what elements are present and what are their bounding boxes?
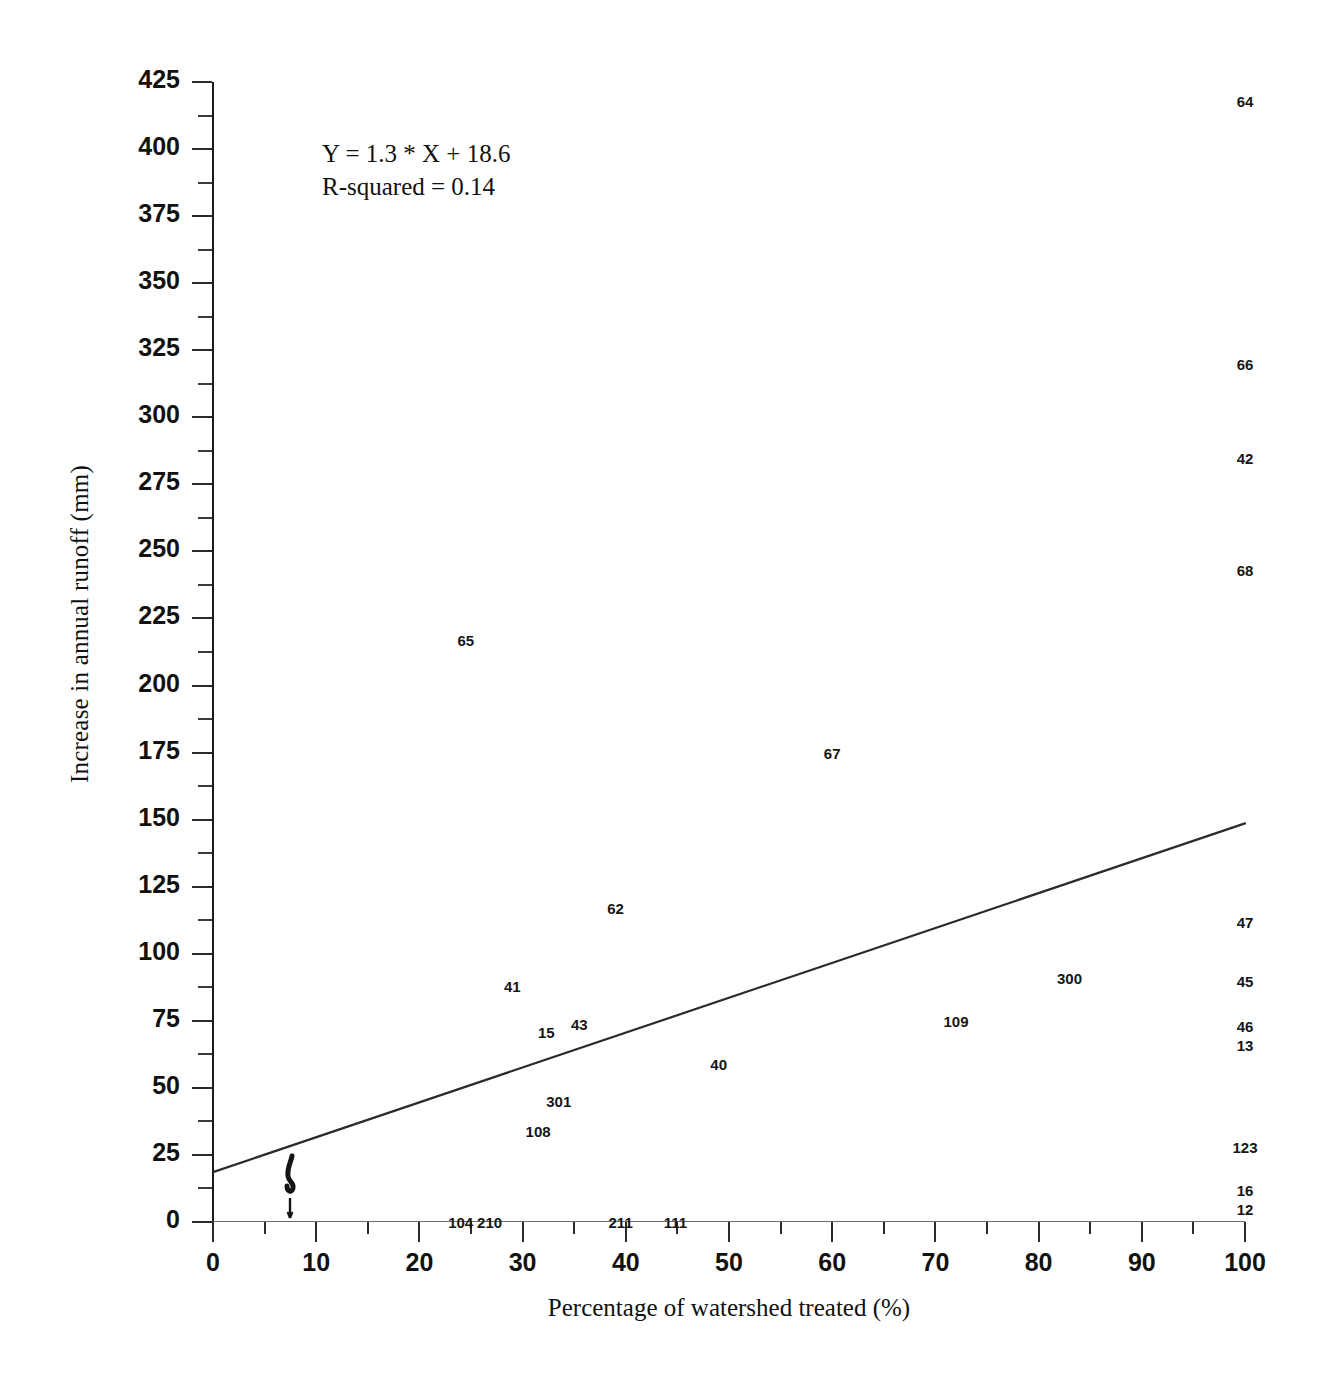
y-tick-label: 75 xyxy=(88,1004,180,1033)
y-tick-minor xyxy=(198,785,212,787)
x-tick-minor xyxy=(573,1222,575,1234)
data-point-label: 40 xyxy=(710,1055,727,1072)
x-tick-label: 40 xyxy=(591,1248,661,1277)
x-tick-major xyxy=(728,1222,730,1242)
y-tick-minor xyxy=(198,1120,212,1122)
x-tick-major xyxy=(522,1222,524,1242)
data-point-label: 46 xyxy=(1237,1018,1254,1035)
y-tick-label: 175 xyxy=(88,736,180,765)
data-point-label: 65 xyxy=(457,631,474,648)
y-tick-major xyxy=(192,1087,212,1089)
y-tick-major xyxy=(192,349,212,351)
y-tick-major xyxy=(192,819,212,821)
x-tick-label: 0 xyxy=(178,1248,248,1277)
data-point-label: 104 xyxy=(448,1214,473,1231)
y-tick-minor xyxy=(198,1187,212,1189)
y-tick-major xyxy=(192,148,212,150)
y-tick-label: 150 xyxy=(88,803,180,832)
data-point-label: 109 xyxy=(944,1012,969,1029)
x-tick-label: 70 xyxy=(900,1248,970,1277)
x-tick-minor xyxy=(367,1222,369,1234)
data-point-label: 68 xyxy=(1237,562,1254,579)
y-tick-label: 400 xyxy=(88,132,180,161)
data-point-label: 300 xyxy=(1057,969,1082,986)
data-point-label: 66 xyxy=(1237,355,1254,372)
x-tick-minor xyxy=(780,1222,782,1234)
x-axis-title: Percentage of watershed treated (%) xyxy=(213,1294,1245,1322)
y-tick-label: 200 xyxy=(88,669,180,698)
y-tick-minor xyxy=(198,584,212,586)
y-tick-minor xyxy=(198,718,212,720)
y-tick-major xyxy=(192,282,212,284)
x-tick-minor xyxy=(264,1222,266,1234)
data-point-label: 62 xyxy=(607,900,624,917)
x-tick-major xyxy=(1244,1222,1246,1242)
data-point-label: 43 xyxy=(571,1015,588,1032)
x-tick-major xyxy=(831,1222,833,1242)
y-tick-label: 100 xyxy=(88,937,180,966)
x-tick-major xyxy=(1141,1222,1143,1242)
data-point-label: 108 xyxy=(526,1122,551,1139)
y-tick-label: 375 xyxy=(88,199,180,228)
x-tick-major xyxy=(418,1222,420,1242)
y-tick-label: 325 xyxy=(88,333,180,362)
x-tick-minor xyxy=(1192,1222,1194,1234)
y-tick-minor xyxy=(198,249,212,251)
data-point-label: 15 xyxy=(538,1023,555,1040)
data-point-label: 301 xyxy=(546,1093,571,1110)
y-tick-major xyxy=(192,886,212,888)
data-point-label: 123 xyxy=(1232,1138,1257,1155)
data-point-label: 42 xyxy=(1237,449,1254,466)
x-tick-minor xyxy=(883,1222,885,1234)
data-point-label: 13 xyxy=(1237,1036,1254,1053)
data-point-label: 12 xyxy=(1237,1200,1254,1217)
y-axis-line xyxy=(212,82,214,1224)
y-tick-minor xyxy=(198,517,212,519)
y-tick-minor xyxy=(198,919,212,921)
y-tick-label: 225 xyxy=(88,601,180,630)
y-tick-label: 300 xyxy=(88,400,180,429)
y-tick-label: 350 xyxy=(88,266,180,295)
data-point-label: 211 xyxy=(609,1214,633,1231)
y-tick-major xyxy=(192,81,212,83)
y-tick-major xyxy=(192,1154,212,1156)
x-tick-major xyxy=(315,1222,317,1242)
x-tick-label: 60 xyxy=(797,1248,867,1277)
x-tick-label: 90 xyxy=(1107,1248,1177,1277)
regression-annotation: Y = 1.3 * X + 18.6 R-squared = 0.14 xyxy=(322,137,510,203)
x-tick-label: 50 xyxy=(694,1248,764,1277)
y-tick-minor xyxy=(198,986,212,988)
x-tick-major xyxy=(212,1222,214,1242)
data-point-label: 45 xyxy=(1237,972,1254,989)
scatter-plot-figure: Increase in annual runoff (mm) Percentag… xyxy=(0,0,1329,1396)
y-tick-label: 250 xyxy=(88,534,180,563)
x-tick-label: 30 xyxy=(488,1248,558,1277)
y-tick-major xyxy=(192,416,212,418)
y-tick-major xyxy=(192,215,212,217)
x-tick-label: 10 xyxy=(281,1248,351,1277)
x-tick-label: 20 xyxy=(384,1248,454,1277)
y-tick-major xyxy=(192,483,212,485)
y-tick-minor xyxy=(198,852,212,854)
y-tick-label: 125 xyxy=(88,870,180,899)
y-tick-major xyxy=(192,685,212,687)
y-tick-label: 275 xyxy=(88,467,180,496)
y-tick-major xyxy=(192,953,212,955)
data-point-label: 210 xyxy=(477,1214,502,1231)
y-tick-label: 0 xyxy=(88,1205,180,1234)
y-tick-major xyxy=(192,550,212,552)
y-tick-major xyxy=(192,752,212,754)
x-tick-label: 80 xyxy=(1004,1248,1074,1277)
y-tick-label: 425 xyxy=(88,65,180,94)
y-tick-major xyxy=(192,1020,212,1022)
y-tick-major xyxy=(192,1221,212,1223)
x-tick-major xyxy=(1038,1222,1040,1242)
y-tick-minor xyxy=(198,115,212,117)
data-point-label: 67 xyxy=(824,744,841,761)
r-squared-value: R-squared = 0.14 xyxy=(322,170,510,203)
y-tick-minor xyxy=(198,450,212,452)
ink-smudge-mark xyxy=(278,1152,304,1222)
x-tick-label: 100 xyxy=(1210,1248,1280,1277)
y-tick-minor xyxy=(198,316,212,318)
y-tick-minor xyxy=(198,182,212,184)
